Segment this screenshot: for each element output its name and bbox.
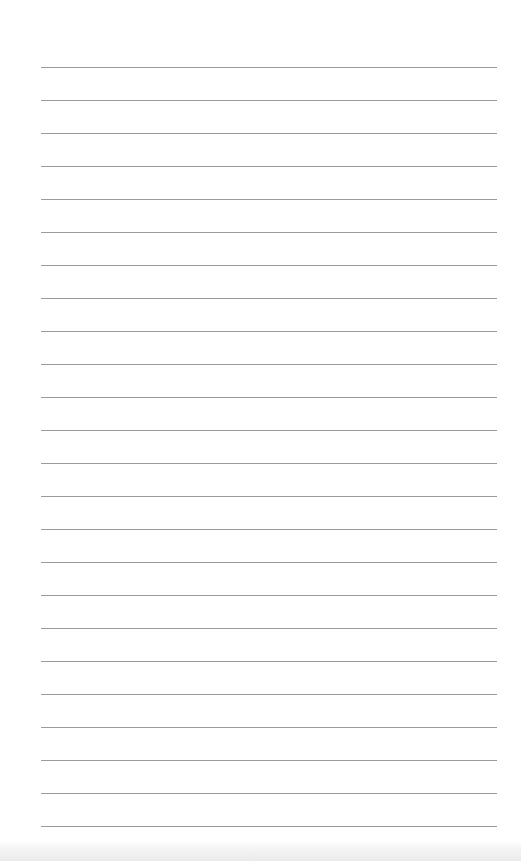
ruled-line: [41, 100, 497, 101]
ruled-line: [41, 694, 497, 695]
scan-edge-bottom: [0, 841, 521, 861]
ruled-line: [41, 595, 497, 596]
ruled-line: [41, 661, 497, 662]
ruled-line: [41, 727, 497, 728]
ruled-line: [41, 628, 497, 629]
ruled-line: [41, 199, 497, 200]
ruled-line: [41, 562, 497, 563]
ruled-line: [41, 430, 497, 431]
ruled-line: [41, 397, 497, 398]
ruled-line: [41, 298, 497, 299]
ruled-line: [41, 265, 497, 266]
ruled-line: [41, 496, 497, 497]
ruled-line: [41, 826, 497, 827]
ruled-line: [41, 232, 497, 233]
ruled-line: [41, 166, 497, 167]
ruled-line: [41, 529, 497, 530]
lined-paper-page: [0, 0, 521, 861]
ruled-line: [41, 364, 497, 365]
ruled-line: [41, 793, 497, 794]
ruled-line: [41, 760, 497, 761]
ruled-line: [41, 67, 497, 68]
ruled-line: [41, 331, 497, 332]
ruled-line: [41, 133, 497, 134]
ruled-line: [41, 463, 497, 464]
